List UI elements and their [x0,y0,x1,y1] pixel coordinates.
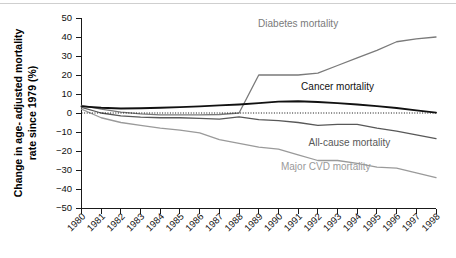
mortality-trend-line-chart: Change in age- adjusted mortality rate s… [0,0,456,258]
series-label-cancer-mortality: Cancer mortality [301,81,374,92]
figure-container: Change in age- adjusted mortality rate s… [0,0,456,258]
y-tick-label: 20 [61,69,72,80]
y-tick-label: 10 [61,88,72,99]
y-tick-label: 50 [61,12,72,23]
y-tick-label: 0 [67,107,72,118]
y-axis-title-line2: rate since 1979 (%) [26,66,38,161]
y-tick-label: −10 [56,126,72,137]
y-tick-label: −20 [56,145,72,156]
y-tick-label: −30 [56,164,72,175]
series-label-diabetes-mortality: Diabetes mortality [258,18,338,29]
series-label-major-cvd-mortality: Major CVD mortality [281,161,370,172]
y-tick-label: −40 [56,183,72,194]
y-tick-label: 40 [61,31,72,42]
y-tick-label: −50 [56,202,72,213]
series-label-all-cause-mortality: All-cause mortality [308,137,390,148]
y-tick-label: 30 [61,50,72,61]
y-axis-title-line1: Change in age- adjusted mortality [12,29,24,198]
